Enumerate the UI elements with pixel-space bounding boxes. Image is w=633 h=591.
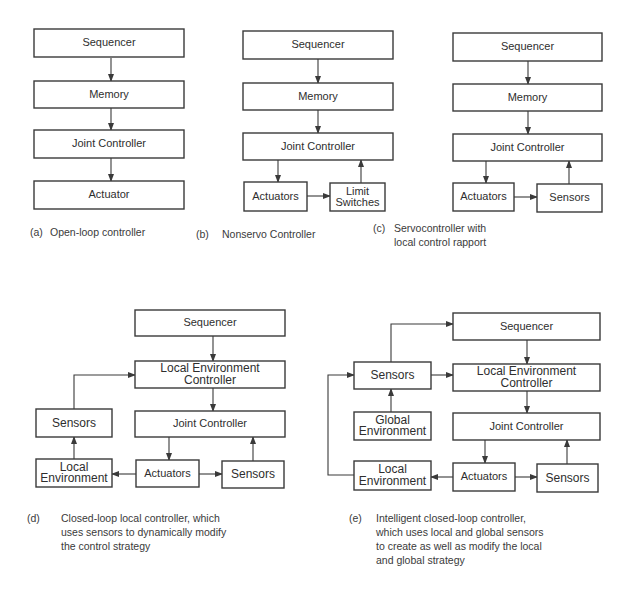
block-label: Environment [359,474,427,488]
block-seq: Sequencer [453,33,602,61]
block-label: Sequencer [82,36,136,48]
block-label: Memory [298,90,338,102]
caption-label: (e) [349,512,362,524]
caption-text: to create as well as modify the local [376,540,542,552]
block-jc: Joint Controller [135,411,285,437]
caption-c: (c)Servocontroller withlocal control rap… [373,222,486,248]
block-act: Actuators [453,463,515,491]
block-label: Sensors [370,368,414,382]
block-label: Actuator [89,188,130,200]
block-label: Joint Controller [281,140,355,152]
block-act: Actuators [136,460,199,487]
block-label: Sensors [545,471,589,485]
diagram-e: SequencerSensorsLocal EnvironmentControl… [328,313,600,566]
block-label: Sequencer [501,40,555,52]
block-label: Sequencer [291,38,345,50]
block-lec: Local EnvironmentController [135,361,285,388]
block-genv: GlobalEnvironment [354,412,431,440]
block-lec: Local EnvironmentController [453,364,600,391]
block-sen: Sensors [537,184,602,212]
diagram-a: SequencerMemoryJoint ControllerActuator(… [30,29,184,238]
block-label: Sensors [549,191,590,203]
block-sen-l: Sensors [36,409,112,437]
block-label: Controller [184,373,236,387]
diagram-d: SequencerLocal EnvironmentControllerJoin… [27,310,285,552]
block-label: Joint Controller [490,420,564,432]
block-label: Actuators [460,190,507,202]
caption-d: (d)Closed-loop local controller, whichus… [27,512,227,552]
caption-text: uses sensors to dynamically modify [61,526,227,538]
block-mem: Memory [453,84,602,111]
block-label: Memory [508,91,548,103]
caption-label: (b) [196,228,209,240]
block-label: Memory [89,88,129,100]
block-sen-l: Sensors [354,362,431,389]
block-label: Actuators [461,470,508,482]
caption-text: Intelligent closed-loop controller, [376,512,526,524]
arrow [391,324,453,362]
block-act: Actuator [34,181,184,209]
controller-diagrams: SequencerMemoryJoint ControllerActuator(… [0,0,633,591]
arrow [74,375,135,409]
caption-e: (e)Intelligent closed-loop controller,wh… [349,512,544,566]
block-mem: Memory [34,81,184,108]
caption-a: (a)Open-loop controller [30,226,146,238]
caption-label: (c) [373,222,385,234]
block-seq: Sequencer [453,313,600,340]
block-lim: LimitSwitches [330,183,385,211]
block-jc: Joint Controller [243,133,393,160]
block-label: Actuators [144,467,191,479]
caption-text: local control rapport [394,236,486,248]
caption-label: (d) [27,512,40,524]
block-seq: Sequencer [243,31,393,59]
block-label: Joint Controller [173,417,247,429]
caption-text: and global strategy [376,554,465,566]
block-label: Joint Controller [72,137,146,149]
caption-text: Nonservo Controller [222,228,316,240]
diagram-c: SequencerMemoryJoint ControllerActuators… [373,33,602,248]
block-label: Environment [40,471,108,485]
block-sen-r: Sensors [222,461,284,488]
diagram-b: SequencerMemoryJoint ControllerActuators… [196,31,393,240]
block-label: Joint Controller [491,141,565,153]
block-act: Actuators [453,183,514,211]
block-label: Switches [335,196,380,208]
block-act: Actuators [244,182,307,211]
block-sen-r: Sensors [537,464,598,492]
block-seq: Sequencer [34,29,184,57]
block-label: Sensors [52,416,96,430]
block-label: Sequencer [183,316,237,328]
block-mem: Memory [243,83,393,110]
block-jc: Joint Controller [453,134,602,161]
caption-text: Closed-loop local controller, which [61,512,220,524]
caption-label: (a) [30,226,43,238]
block-label: Actuators [252,190,299,202]
caption-text: the control strategy [61,540,151,552]
block-jc: Joint Controller [453,413,600,440]
caption-text: Servocontroller with [394,222,486,234]
block-label: Controller [500,376,552,390]
caption-b: (b)Nonservo Controller [196,228,316,240]
block-lenv: LocalEnvironment [354,461,431,490]
block-label: Sequencer [500,320,554,332]
arrow [328,375,354,475]
block-jc: Joint Controller [34,130,184,158]
caption-text: which uses local and global sensors [375,526,544,538]
block-seq: Sequencer [135,310,285,336]
block-label: Environment [359,424,427,438]
block-label: Sensors [231,467,275,481]
block-lenv: LocalEnvironment [36,459,112,487]
caption-text: Open-loop controller [50,226,146,238]
